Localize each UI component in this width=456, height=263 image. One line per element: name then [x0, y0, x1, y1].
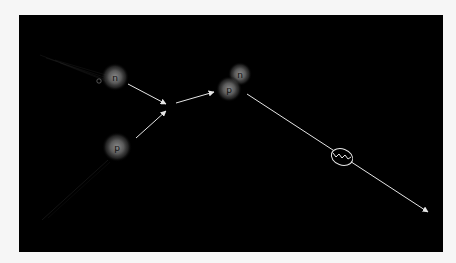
fusion-arrow: [176, 92, 214, 103]
proton-incoming: p: [102, 132, 132, 162]
proton-motion-trail: [42, 160, 110, 220]
gamma-photon-icon: [329, 146, 355, 169]
proton-arrow: [136, 111, 166, 138]
neutron-label: n: [112, 73, 118, 83]
neutron-trail-marker: [97, 79, 101, 83]
neutron-arrow: [128, 84, 166, 104]
deuteron-neutron-label: n: [237, 70, 243, 80]
neutron-motion-trail: [40, 55, 106, 81]
fusion-diagram: n p n p: [0, 0, 456, 263]
neutron-incoming: n: [101, 63, 129, 91]
deuteron-proton-label: p: [226, 85, 232, 95]
proton-label: p: [114, 143, 120, 153]
deuteron: n p: [216, 62, 252, 102]
